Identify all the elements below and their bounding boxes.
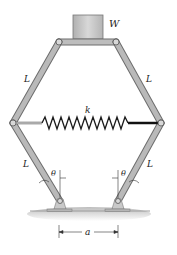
left-angle-label: θ (51, 169, 56, 178)
lower-right-length-label: L (146, 159, 153, 169)
weight-label: W (109, 18, 120, 29)
spring (15, 117, 159, 129)
ground (27, 207, 151, 221)
distance-a-label: a (85, 227, 90, 237)
upper-left-length-label: L (23, 74, 30, 84)
right-angle-label: θ (121, 169, 126, 178)
upper-right-link (116, 42, 161, 123)
lower-left-length-label: L (22, 159, 29, 169)
lower-left-link (13, 123, 60, 201)
lower-right-link (118, 123, 161, 201)
mechanism-diagram: W k L L L L θ θ a (0, 0, 177, 255)
weight-block (73, 15, 103, 39)
upper-right-length-label: L (145, 74, 152, 84)
spring-label: k (85, 105, 90, 115)
upper-left-link (13, 42, 59, 123)
